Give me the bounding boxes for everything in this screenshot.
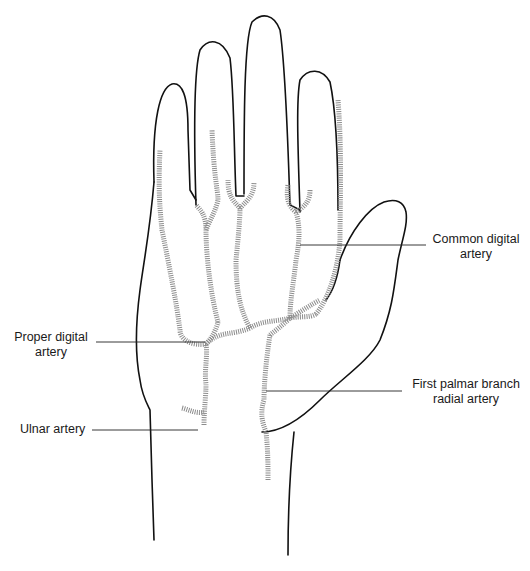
hand-outline [136,16,406,555]
arteries [159,100,340,480]
label-line-1: Proper digital [6,330,96,345]
hand-illustration [0,0,530,571]
label-ulnar-artery: Ulnar artery [20,422,92,437]
label-line-1: Common digital [428,232,524,247]
label-first-palmar-branch-radial-artery: First palmar branch radial artery [404,377,528,407]
label-line-2: radial artery [404,392,528,407]
label-common-digital-artery: Common digital artery [428,232,524,262]
label-line-1: First palmar branch [404,377,528,392]
label-line-2: artery [428,247,524,262]
label-proper-digital-artery: Proper digital artery [6,330,96,360]
hand-artery-diagram: Common digital artery Proper digital art… [0,0,530,571]
label-line-2: artery [6,345,96,360]
label-line-1: Ulnar artery [20,422,92,437]
